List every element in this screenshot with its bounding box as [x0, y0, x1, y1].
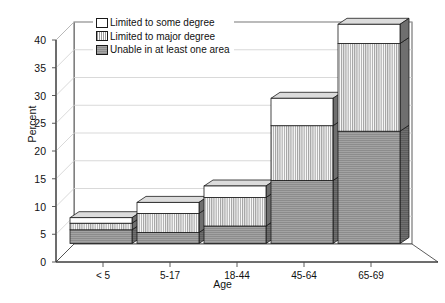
legend-swatch-unable-icon [96, 45, 108, 55]
legend-swatch-some-icon [96, 18, 108, 28]
legend-swatch-major-icon [96, 31, 108, 41]
chart-legend: Limited to some degree Limited to major … [93, 14, 234, 59]
y-tick-15: 15 [20, 174, 46, 184]
legend-item-some: Limited to some degree [96, 16, 230, 30]
legend-item-major: Limited to major degree [96, 30, 230, 44]
x-axis-title: Age [0, 278, 445, 290]
legend-label-major: Limited to major degree [110, 30, 215, 44]
y-tick-25: 25 [20, 118, 46, 128]
y-tick-30: 30 [20, 91, 46, 101]
bar-group-lt5 [70, 212, 141, 244]
bar-group-45-64 [271, 92, 342, 243]
y-tick-0: 0 [20, 257, 46, 267]
bar-group-18-44 [204, 180, 275, 244]
legend-label-unable: Unable in at least one area [110, 43, 230, 57]
bar-group-5-17 [137, 196, 208, 243]
bar-group-65-69 [338, 18, 409, 243]
legend-label-some: Limited to some degree [110, 16, 215, 30]
y-tick-10: 10 [20, 202, 46, 212]
y-tick-5: 5 [20, 229, 46, 239]
chart-figure: Percent 40 35 30 25 20 15 10 5 0 < 5 5-1… [0, 0, 445, 303]
y-tick-20: 20 [20, 146, 46, 156]
legend-item-unable: Unable in at least one area [96, 43, 230, 57]
y-tick-40: 40 [20, 35, 46, 45]
y-tick-35: 35 [20, 63, 46, 73]
